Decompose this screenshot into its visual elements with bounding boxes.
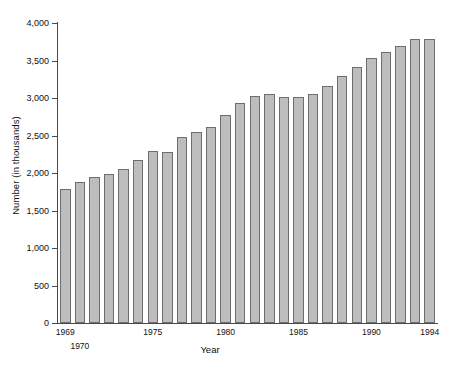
y-axis-tick-mark (52, 136, 58, 137)
bar (220, 115, 230, 323)
y-axis-label-text: Number (in thousands) (10, 116, 21, 215)
x-axis-tick-label: 1985 (289, 327, 308, 337)
bar (206, 127, 216, 324)
y-axis-tick-label: 2,000 (26, 168, 49, 178)
y-axis-tick-label: 4,000 (26, 18, 49, 28)
bar (191, 132, 201, 323)
x-axis-tick-label: 1980 (216, 327, 235, 337)
bar (235, 103, 245, 323)
y-axis-label: Number (in thousands) (4, 0, 26, 330)
plot-area: 05001,0001,5002,0002,5003,0003,5004,000 (58, 23, 437, 323)
y-axis-tick-mark (52, 98, 58, 99)
y-axis-tick-label: 2,500 (26, 131, 49, 141)
y-axis-tick-mark (52, 23, 58, 24)
bar (89, 177, 99, 323)
y-axis-tick-label: 3,500 (26, 56, 49, 66)
bar (162, 152, 172, 323)
bar (381, 52, 391, 324)
x-axis-label: Year (0, 344, 456, 355)
bar (293, 97, 303, 323)
x-axis-tick-label: 1990 (362, 327, 381, 337)
bar (104, 174, 114, 323)
x-axis-tick-label: 1994 (420, 327, 439, 337)
bar (250, 96, 260, 323)
x-axis-tick-label: 1969 (56, 327, 75, 337)
bar (148, 151, 158, 323)
x-axis-tick-label: 1975 (143, 327, 162, 337)
bar (366, 58, 376, 324)
y-axis-tick-label: 1,500 (26, 206, 49, 216)
y-axis-tick-mark (52, 173, 58, 174)
bar (352, 67, 362, 323)
y-axis-tick-label: 1,000 (26, 243, 49, 253)
bar (337, 76, 347, 324)
x-axis-label-text: Year (200, 344, 219, 355)
bar (308, 94, 318, 324)
bar (133, 160, 143, 323)
bar (279, 97, 289, 323)
y-axis-tick-label: 0 (44, 318, 49, 328)
y-axis-tick-label: 3,000 (26, 93, 49, 103)
y-axis-tick-label: 500 (34, 281, 49, 291)
bar (75, 182, 85, 323)
bar (60, 189, 70, 323)
bar (322, 86, 332, 323)
bar (264, 94, 274, 324)
bar (395, 46, 405, 324)
y-axis-tick-mark (52, 286, 58, 287)
y-axis-tick-mark (52, 61, 58, 62)
bar (410, 39, 420, 323)
y-axis-tick-mark (52, 248, 58, 249)
y-axis-tick-mark (52, 323, 58, 324)
bar (118, 169, 128, 324)
x-axis-line (57, 323, 438, 324)
y-axis-tick-mark (52, 211, 58, 212)
bar (424, 39, 434, 323)
bar (177, 137, 187, 323)
bar-chart: Number (in thousands) 05001,0001,5002,00… (0, 0, 456, 365)
